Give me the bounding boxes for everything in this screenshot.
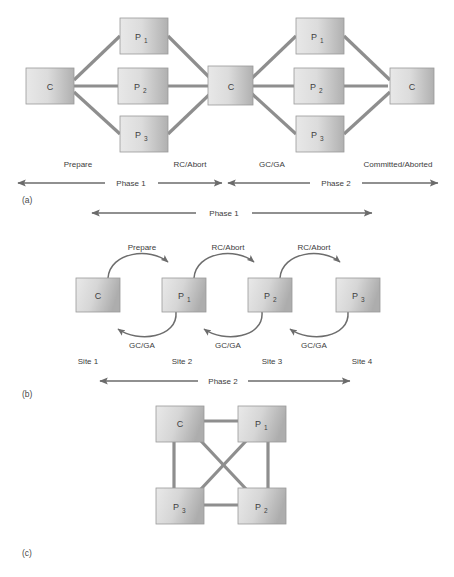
site-label-3: Site 3 <box>262 357 283 366</box>
node-label: P <box>255 502 261 512</box>
part-b-group: Phase 1 Prepare RC/Abort RC/Abort GC/GA … <box>22 209 380 399</box>
site-label-2: Site 2 <box>172 357 193 366</box>
site-label-4: Site 4 <box>352 357 373 366</box>
phase-1-arrow-b: Phase 1 <box>92 209 372 218</box>
edge-c-left-to-p3 <box>74 92 120 134</box>
part-label-a: (a) <box>22 195 33 205</box>
node-label: C <box>47 82 54 92</box>
node-coordinator-left: C <box>26 68 74 104</box>
part-label-b: (b) <box>22 389 33 399</box>
node-label: P <box>135 32 141 42</box>
node-label-sub: 2 <box>273 296 277 303</box>
node-label: P <box>311 130 317 140</box>
message-label-rc-abort-b1: RC/Abort <box>212 243 246 252</box>
phase-label-2: Phase 2 <box>321 179 351 188</box>
part-a-group: C P 1 P 2 P 3 C P 1 P 2 <box>18 18 438 205</box>
curve-gc-ga-p3-to-p2 <box>290 312 348 337</box>
edge-p1r-to-c-right <box>344 36 390 80</box>
node-label: P <box>173 502 179 512</box>
edge-c-mid-to-p1r <box>250 36 296 80</box>
node-participant-1-left: P 1 <box>120 18 168 54</box>
node-c-participant-2: P 2 <box>238 488 286 524</box>
edge-p3r-to-c-right <box>344 92 390 134</box>
curve-rc-abort-p2-to-p3 <box>280 254 340 278</box>
node-label: P <box>311 32 317 42</box>
edge-c-left-to-p1 <box>74 36 120 80</box>
node-label: C <box>228 82 235 92</box>
site-label-1: Site 1 <box>78 357 99 366</box>
node-c-participant-1: P 1 <box>238 406 286 442</box>
node-label-sub: 3 <box>182 507 186 514</box>
message-label-gc-ga-b2: GC/GA <box>215 341 241 350</box>
node-label-sub: 1 <box>264 424 268 431</box>
node-label-sub: 1 <box>187 296 191 303</box>
phase-1-arrow-a: Phase 1 <box>18 179 222 188</box>
node-label: P <box>135 130 141 140</box>
curve-gc-ga-p2-to-p1 <box>204 312 262 337</box>
phase-label-2-b: Phase 2 <box>208 377 238 386</box>
node-label: C <box>177 419 184 429</box>
node-label: P <box>255 419 261 429</box>
phase-label-1: Phase 1 <box>116 179 146 188</box>
node-label-sub: 3 <box>320 135 324 142</box>
message-label-prepare: Prepare <box>64 160 93 169</box>
part-label-c: (c) <box>22 548 32 558</box>
message-label-gc-ga-b3: GC/GA <box>301 341 327 350</box>
node-b-coordinator: C <box>76 278 120 312</box>
node-label-sub: 2 <box>264 507 268 514</box>
message-label-gc-ga-b1: GC/GA <box>129 341 155 350</box>
message-label-gc-ga: GC/GA <box>259 160 285 169</box>
node-c-coordinator: C <box>156 406 204 442</box>
node-label-sub: 2 <box>143 87 147 94</box>
node-label-sub: 3 <box>361 296 365 303</box>
curve-prepare-c-to-p1 <box>108 254 168 278</box>
node-participant-3-right: P 3 <box>296 116 344 152</box>
phase-2-arrow-b: Phase 2 <box>100 377 350 386</box>
phase-2-arrow-a: Phase 2 <box>228 179 438 188</box>
node-c-participant-3: P 3 <box>156 488 204 524</box>
node-label-sub: 2 <box>319 87 323 94</box>
figure-root: C P 1 P 2 P 3 C P 1 P 2 <box>0 0 454 577</box>
edge-p3-to-c-mid <box>168 92 212 134</box>
node-b-participant-2: P 2 <box>248 278 292 312</box>
phase-label-overall: Phase 1 <box>209 209 239 218</box>
part-c-group: C P 1 P 3 P 2 (c) <box>22 406 286 558</box>
edge-c-mid-to-p3r <box>250 92 296 134</box>
curve-gc-ga-p1-to-c <box>118 312 176 337</box>
node-participant-1-right: P 1 <box>296 18 344 54</box>
node-label: C <box>409 82 416 92</box>
node-participant-2-left: P 2 <box>118 68 168 104</box>
node-label: P <box>178 291 184 301</box>
node-participant-2-right: P 2 <box>294 68 344 104</box>
diagram-canvas: C P 1 P 2 P 3 C P 1 P 2 <box>0 0 454 577</box>
message-label-committed-aborted: Committed/Aborted <box>364 160 433 169</box>
node-participant-3-left: P 3 <box>120 116 168 152</box>
node-label: P <box>352 291 358 301</box>
node-coordinator-middle: C <box>208 66 253 105</box>
node-label: P <box>264 291 270 301</box>
message-label-prepare-b: Prepare <box>128 243 157 252</box>
node-b-participant-3: P 3 <box>336 278 380 312</box>
edge-p1-to-c-mid <box>168 36 212 80</box>
node-label: P <box>310 82 316 92</box>
node-label-sub: 3 <box>144 135 148 142</box>
message-label-rc-abort-b2: RC/Abort <box>298 243 332 252</box>
part-b-bottom-curves <box>118 312 348 337</box>
node-label: P <box>134 82 140 92</box>
curve-rc-abort-p1-to-p2 <box>194 254 254 278</box>
node-b-participant-1: P 1 <box>162 278 206 312</box>
node-label-sub: 1 <box>144 37 148 44</box>
part-b-top-curves <box>108 254 340 278</box>
node-label: C <box>95 291 102 301</box>
node-coordinator-right: C <box>390 68 434 104</box>
node-label-sub: 1 <box>320 37 324 44</box>
message-label-rc-abort: RC/Abort <box>174 160 208 169</box>
